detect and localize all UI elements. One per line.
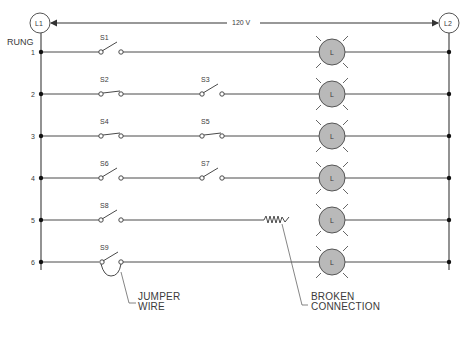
l2-label: L2	[444, 20, 452, 27]
broken-wire-icon	[264, 216, 289, 223]
switch-label-s5: S5	[201, 118, 210, 125]
lamps	[316, 36, 348, 278]
rung-3	[39, 133, 451, 138]
rung-4	[39, 168, 451, 180]
lamp-label-1: L	[330, 49, 334, 56]
broken-leader-line	[282, 224, 308, 305]
ladder-diagram-graphics	[0, 0, 467, 338]
rung-2	[39, 84, 451, 96]
voltage-label: 120 V	[232, 19, 250, 26]
rung-6	[39, 252, 451, 276]
rung-header: RUNG	[7, 38, 34, 47]
rung-number-2: 2	[25, 91, 35, 98]
broken-callout-line2: CONNECTION	[311, 302, 380, 312]
lamp-label-2: L	[330, 91, 334, 98]
jumper-callout-line2: WIRE	[138, 302, 165, 312]
l1-label: L1	[35, 20, 43, 27]
switch-label-s6: S6	[100, 160, 109, 167]
lamp-label-6: L	[330, 259, 334, 266]
rung-number-4: 4	[25, 175, 35, 182]
jumper-wire-icon	[101, 264, 121, 276]
switch-label-s1: S1	[100, 34, 109, 41]
ladder-diagram: L1 L2 120 V RUNG 1 2 3 4 5 6 S1 S2 S3 S4…	[0, 0, 467, 338]
lamp-label-5: L	[330, 217, 334, 224]
rung-1	[39, 42, 451, 54]
lamp-label-3: L	[330, 133, 334, 140]
switch-label-s3: S3	[201, 76, 210, 83]
rung-number-5: 5	[25, 217, 35, 224]
jumper-leader-line	[121, 272, 136, 303]
switch-label-s8: S8	[100, 202, 109, 209]
rung-number-3: 3	[25, 133, 35, 140]
switch-label-s4: S4	[100, 118, 109, 125]
rung-5	[39, 210, 451, 223]
switch-label-s7: S7	[201, 160, 210, 167]
switch-label-s9: S9	[100, 244, 109, 251]
switch-label-s2: S2	[100, 76, 109, 83]
rung-number-6: 6	[25, 259, 35, 266]
lamp-label-4: L	[330, 175, 334, 182]
rung-number-1: 1	[25, 49, 35, 56]
